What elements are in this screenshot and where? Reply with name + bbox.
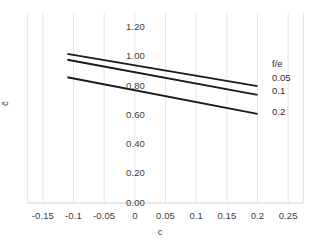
y-axis-title: c̄ <box>0 101 10 106</box>
y-tick-label: 0.00 <box>105 197 145 208</box>
x-tick-label: 0.25 <box>268 210 308 221</box>
legend-label-series-2: 0.2 <box>272 106 285 117</box>
legend-title: f/e <box>272 58 283 69</box>
series-line-1 <box>67 60 257 95</box>
legend-label-series-1: 0.1 <box>272 85 285 96</box>
y-tick-label: 0.20 <box>105 167 145 178</box>
y-axis-title-wrapper: c̄ <box>4 88 34 118</box>
series-line-0 <box>67 54 257 86</box>
chart-figure: 0.000.200.400.600.801.001.20 -0.15-0.1-0… <box>0 0 323 245</box>
legend-label-series-0: 0.05 <box>272 72 291 83</box>
plot-canvas <box>0 0 323 245</box>
y-tick-label: 0.80 <box>105 80 145 91</box>
gridlines-group <box>43 13 288 203</box>
y-tick-label: 1.20 <box>105 21 145 32</box>
x-axis-title: c <box>145 226 175 237</box>
series-line-2 <box>67 77 257 114</box>
y-tick-label: 1.00 <box>105 50 145 61</box>
y-tick-label: 0.60 <box>105 109 145 120</box>
series-lines-group <box>67 54 257 114</box>
y-tick-label: 0.40 <box>105 138 145 149</box>
